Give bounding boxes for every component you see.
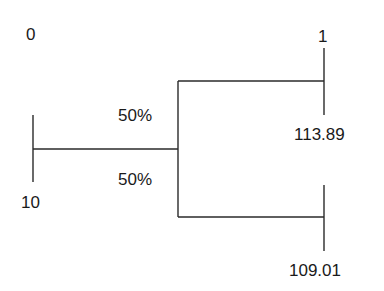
lower-probability-label: 50% <box>118 171 152 188</box>
upper-outcome-top-label: 1 <box>318 28 327 45</box>
upper-outcome-value: 113.89 <box>294 126 345 143</box>
root-bottom-label: 10 <box>21 194 40 211</box>
upper-probability-label: 50% <box>118 107 152 124</box>
root-top-label: 0 <box>26 26 35 43</box>
lower-outcome-value: 109.01 <box>289 262 341 279</box>
